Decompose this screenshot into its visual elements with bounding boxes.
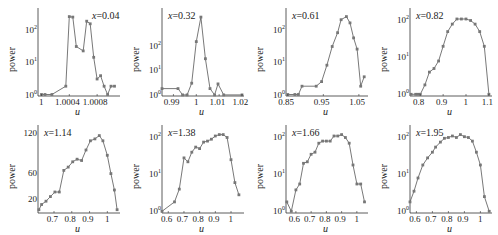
data-point-marker <box>488 210 491 213</box>
data-point-marker <box>213 94 216 97</box>
y-axis-label: power <box>378 47 389 72</box>
x-tick-label: 0.8 <box>413 97 424 107</box>
y-tick-label: 102 <box>25 24 37 35</box>
data-point-marker <box>333 135 336 138</box>
data-point-marker <box>359 183 362 186</box>
data-point-marker <box>359 85 362 88</box>
data-line <box>288 17 364 95</box>
x-axis-label: u <box>447 106 452 117</box>
data-point-marker <box>294 93 297 96</box>
data-point-marker <box>190 82 193 85</box>
data-point-marker <box>49 195 52 198</box>
data-point-marker <box>110 85 113 88</box>
data-point-marker <box>40 203 43 206</box>
x-tick-label: 0.6 <box>289 214 300 224</box>
data-point-marker <box>336 31 339 34</box>
data-point-marker <box>356 183 359 186</box>
data-point-marker <box>306 160 309 163</box>
data-point-marker <box>200 16 203 19</box>
x-tick-label: 1 <box>354 214 359 224</box>
panel-annotation: x=1.14 <box>44 127 72 138</box>
data-point-marker <box>71 160 74 163</box>
y-tick-label: 60 <box>28 168 37 178</box>
chart-panel: 11.00041.0008100101102powerux=0.04 <box>0 0 124 117</box>
data-point-marker <box>421 164 424 167</box>
y-tick-label: 101 <box>25 56 37 67</box>
data-point-marker <box>352 164 355 167</box>
data-point-marker <box>113 85 116 88</box>
data-point-marker <box>298 183 301 186</box>
data-point-marker <box>451 135 454 138</box>
x-tick-label: 1 <box>39 97 44 107</box>
data-point-marker <box>340 18 343 21</box>
data-point-marker <box>356 48 359 51</box>
data-point-marker <box>331 45 334 48</box>
data-point-marker <box>410 93 413 96</box>
data-point-marker <box>439 141 442 144</box>
chart-panel: 0.70.80.912060120powerux=1.14 <box>0 117 124 234</box>
axes <box>410 8 492 96</box>
data-point-marker <box>85 149 88 152</box>
data-line <box>287 135 365 212</box>
x-axis-label: u <box>75 223 80 234</box>
data-point-marker <box>38 208 41 211</box>
data-point-marker <box>190 151 193 154</box>
data-point-marker <box>230 158 233 161</box>
data-point-marker <box>301 85 304 88</box>
y-tick-label: 100 <box>273 205 285 216</box>
data-point-marker <box>209 87 212 90</box>
x-axis-label: u <box>323 106 328 117</box>
x-tick-label: 1.0008 <box>83 97 108 107</box>
data-point-marker <box>460 18 463 21</box>
x-tick-label: 0.7 <box>304 214 315 224</box>
chart-panel: 0.60.70.80.91100101102powerux=1.95 <box>372 117 496 234</box>
y-tick-label: 102 <box>273 131 285 142</box>
data-point-marker <box>434 146 437 149</box>
data-point-marker <box>478 30 481 33</box>
data-point-marker <box>467 136 470 139</box>
x-axis-label: u <box>199 106 204 117</box>
y-tick-label: 20 <box>28 194 37 204</box>
data-point-marker <box>161 210 164 213</box>
data-point-marker <box>426 157 429 160</box>
y-tick-label: 100 <box>149 205 161 216</box>
axes <box>162 125 244 213</box>
y-tick-label: 101 <box>397 168 409 179</box>
data-point-marker <box>99 74 102 77</box>
y-tick-label: 102 <box>149 131 161 142</box>
data-point-marker <box>348 142 351 145</box>
x-tick-label: 1.02 <box>232 97 248 107</box>
y-tick-label: 100 <box>149 89 161 100</box>
data-point-marker <box>446 30 449 33</box>
data-point-marker <box>71 16 74 19</box>
data-point-marker <box>187 160 190 163</box>
data-point-marker <box>349 22 352 25</box>
x-tick-label: 1 <box>229 214 234 224</box>
data-point-marker <box>44 93 47 96</box>
data-point-marker <box>68 15 71 18</box>
y-axis-label: power <box>130 164 141 189</box>
y-tick-label: 102 <box>397 14 409 25</box>
data-point-marker <box>177 87 180 90</box>
data-point-marker <box>336 135 339 138</box>
data-point-marker <box>321 140 324 143</box>
data-point-marker <box>463 135 466 138</box>
panel-annotation: x=0.61 <box>292 10 320 21</box>
data-point-marker <box>75 45 78 48</box>
x-tick-label: 1 <box>194 97 199 107</box>
y-tick-label: 102 <box>149 40 161 51</box>
x-tick-label: 1.1 <box>482 97 493 107</box>
data-point-marker <box>295 189 298 192</box>
y-tick-label: 102 <box>397 131 409 142</box>
data-point-marker <box>234 181 237 184</box>
data-point-marker <box>183 157 186 160</box>
data-point-marker <box>161 87 164 90</box>
data-point-marker <box>290 210 293 213</box>
x-axis-label: u <box>75 106 80 117</box>
data-point-marker <box>113 189 116 192</box>
data-point-marker <box>210 138 213 141</box>
data-point-marker <box>226 136 229 139</box>
y-axis-label: power <box>254 47 265 72</box>
data-point-marker <box>89 139 92 142</box>
data-point-marker <box>218 133 221 136</box>
